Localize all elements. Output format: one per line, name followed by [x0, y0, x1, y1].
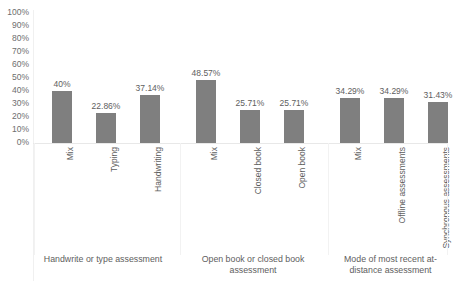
x-axis-category-label: Handwriting: [154, 147, 163, 192]
y-axis-tick-label: 40%: [12, 86, 29, 95]
x-axis-category-label: Offline assessments: [398, 147, 407, 223]
group-separator: [34, 143, 35, 255]
group-separator: [180, 143, 181, 255]
group-label: Handwrite or type assessment: [34, 254, 172, 265]
y-axis: 100%90%80%70%60%50%40%30%20%10%0%: [0, 8, 34, 148]
y-axis-tick-label: 60%: [12, 60, 29, 69]
y-axis-tick-label: 0%: [17, 138, 29, 147]
x-axis-category-label: Mix: [354, 147, 363, 160]
x-axis-category-label: Open book: [298, 147, 307, 189]
y-axis-tick-label: 100%: [7, 8, 29, 17]
category-label-area: MixTypingHandwritingMixClosed bookOpen b…: [34, 0, 447, 145]
y-axis-tick-label: 90%: [12, 21, 29, 30]
y-axis-tick-label: 30%: [12, 99, 29, 108]
group-label: Mode of most recent at-distance assessme…: [334, 254, 447, 276]
y-axis-tick-label: 20%: [12, 112, 29, 121]
y-axis-tick-label: 50%: [12, 73, 29, 82]
y-axis-tick-label: 80%: [12, 34, 29, 43]
group-separator: [328, 143, 329, 255]
x-axis-category-label: Typing: [110, 147, 119, 172]
x-axis-category-label: Mix: [66, 147, 75, 160]
y-axis-tick-label: 10%: [12, 125, 29, 134]
x-axis-category-label: Mix: [210, 147, 219, 160]
group-separator: [447, 143, 448, 255]
y-axis-tick-label: 70%: [12, 47, 29, 56]
group-label: Open book or closed book assessment: [184, 254, 322, 276]
x-axis-category-label: Closed book: [254, 147, 263, 194]
